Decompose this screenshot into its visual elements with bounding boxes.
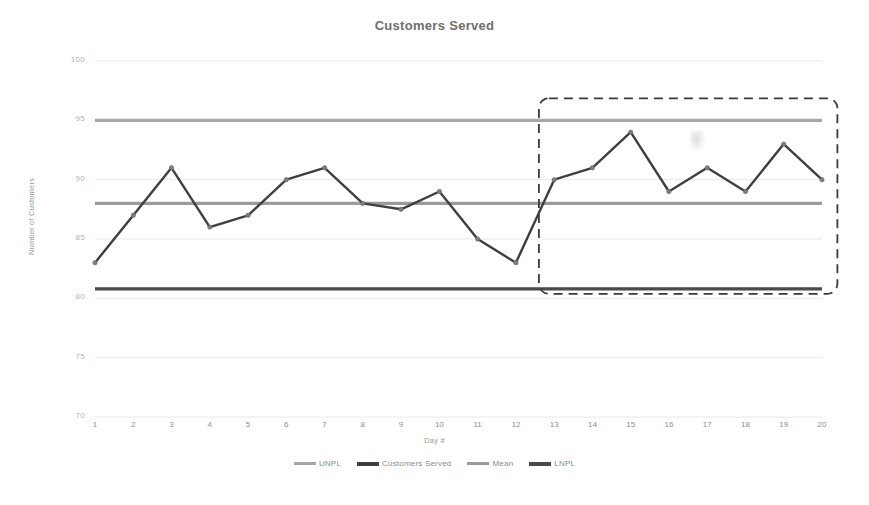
data-point-marker xyxy=(361,201,365,205)
legend-label: Customers Served xyxy=(382,459,451,468)
chart-legend: UNPLCustomers ServedMeanLNPL xyxy=(0,459,869,468)
data-point-marker xyxy=(782,142,786,146)
data-point-marker xyxy=(93,261,97,265)
data-point-marker xyxy=(820,178,824,182)
data-point-marker xyxy=(743,189,747,193)
data-point-marker xyxy=(322,166,326,170)
data-series-line xyxy=(95,132,822,263)
data-point-marker xyxy=(131,213,135,217)
plot-area xyxy=(0,0,869,505)
data-point-marker xyxy=(475,237,479,241)
data-point-marker xyxy=(399,207,403,211)
data-point-marker xyxy=(705,166,709,170)
legend-label: LNPL xyxy=(554,459,575,468)
control-chart: Customers Served Number of Customers Day… xyxy=(0,0,869,505)
legend-label: Mean xyxy=(492,459,513,468)
highlight-box-annotation xyxy=(539,98,838,293)
legend-item[interactable]: UNPL xyxy=(294,459,341,468)
legend-swatch xyxy=(357,462,379,466)
data-point-marker xyxy=(437,189,441,193)
data-point-marker xyxy=(552,178,556,182)
data-point-marker xyxy=(246,213,250,217)
data-point-marker xyxy=(284,178,288,182)
legend-item[interactable]: Mean xyxy=(467,459,513,468)
data-point-marker xyxy=(590,166,594,170)
legend-item[interactable]: LNPL xyxy=(529,459,575,468)
data-point-marker xyxy=(629,130,633,134)
legend-swatch xyxy=(529,462,551,466)
data-point-marker xyxy=(208,225,212,229)
legend-item[interactable]: Customers Served xyxy=(357,459,451,468)
data-point-marker xyxy=(169,166,173,170)
data-point-marker xyxy=(514,261,518,265)
legend-swatch xyxy=(467,462,489,465)
data-point-marker xyxy=(667,189,671,193)
legend-label: UNPL xyxy=(319,459,341,468)
legend-swatch xyxy=(294,462,316,465)
